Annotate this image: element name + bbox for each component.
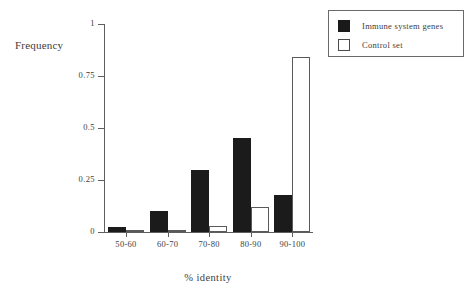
y-axis-tick-label: 0.75 xyxy=(79,70,95,80)
y-axis-tick: 0.75 xyxy=(98,76,104,77)
x-axis-title: % identity xyxy=(0,272,416,283)
y-axis-tick-label: 1 xyxy=(90,18,95,28)
y-axis-tick: 0.25 xyxy=(98,180,104,181)
bar-immune-system-genes xyxy=(233,138,251,232)
y-axis-tick: 1 xyxy=(98,24,104,25)
bar-control-set xyxy=(209,226,227,232)
y-axis-tick: 0.5 xyxy=(98,128,104,129)
y-axis-tick: 0 xyxy=(98,232,104,233)
bar-control-set xyxy=(292,57,310,232)
bar-control-set xyxy=(168,230,186,232)
bar-immune-system-genes xyxy=(191,170,209,232)
y-axis-tick-label: 0 xyxy=(90,226,95,236)
x-axis-tick-label: 90-100 xyxy=(279,239,305,249)
x-axis-tick xyxy=(292,232,293,237)
x-axis-tick-label: 60-70 xyxy=(157,239,178,249)
legend-entry-immune-system-genes: Immune system genes xyxy=(338,19,443,33)
y-axis-tick-label: 0.25 xyxy=(79,174,95,184)
x-axis-tick xyxy=(168,232,169,237)
bar-control-set xyxy=(126,230,144,232)
chart-legend: Immune system genes Control set xyxy=(328,10,464,57)
x-axis-tick-label: 70-80 xyxy=(199,239,220,249)
bar-control-set xyxy=(251,207,269,232)
x-axis-tick-label: 80-90 xyxy=(240,239,261,249)
bar-immune-system-genes xyxy=(108,227,126,232)
legend-label: Immune system genes xyxy=(362,21,443,31)
plot-area: 00.250.50.751 50-6060-7070-8080-9090-100 xyxy=(104,24,312,232)
bar-immune-system-genes xyxy=(150,211,168,232)
x-axis-tick xyxy=(209,232,210,237)
x-axis-tick xyxy=(251,232,252,237)
bar-immune-system-genes xyxy=(274,195,292,232)
filled-square-icon xyxy=(338,20,350,32)
x-axis-tick xyxy=(126,232,127,237)
hollow-square-icon xyxy=(338,39,350,51)
y-axis-tick-label: 0.5 xyxy=(83,122,95,132)
x-axis-tick-label: 50-60 xyxy=(115,239,136,249)
legend-label: Control set xyxy=(362,40,403,50)
y-axis-title: Frequency xyxy=(15,39,63,51)
y-axis-line xyxy=(104,24,105,233)
legend-entry-control-set: Control set xyxy=(338,38,403,52)
